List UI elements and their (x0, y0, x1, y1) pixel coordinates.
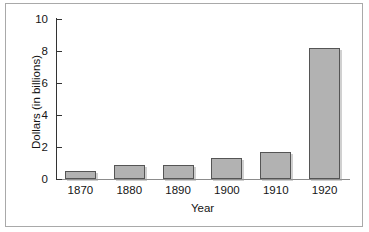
x-tick-label-1870: 1870 (53, 184, 107, 197)
y-axis-label: Dollars (in billions) (30, 32, 42, 172)
bar-1870 (65, 171, 96, 179)
x-tick-label-1920: 1920 (298, 184, 352, 197)
x-axis-label: Year (56, 202, 349, 215)
y-tick-label-0: 0 (22, 173, 48, 185)
y-tick-label-10: 10 (22, 13, 48, 25)
x-tick-label-1880: 1880 (102, 184, 156, 197)
bar-1910 (260, 152, 291, 179)
bar-1890 (163, 165, 194, 179)
bar-chart-figure: 0246810 Dollars (in billions) 1870188018… (0, 0, 369, 232)
x-tick-label-1890: 1890 (151, 184, 205, 197)
bar-1920 (309, 48, 340, 179)
y-axis-label-wrapper: Dollars (in billions) (14, 36, 28, 156)
bar-1900 (211, 158, 242, 179)
bar-1880 (114, 165, 145, 179)
bar-series (56, 19, 349, 179)
x-tick-label-1900: 1900 (200, 184, 254, 197)
x-tick-label-1910: 1910 (249, 184, 303, 197)
